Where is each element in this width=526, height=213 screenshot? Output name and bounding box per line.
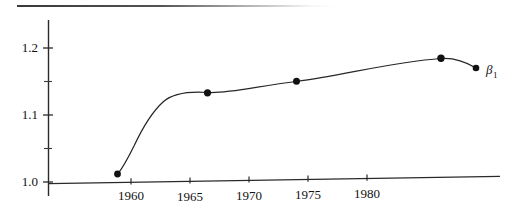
series-label-beta1: β1: [486, 62, 497, 80]
data-point-1966: [204, 89, 211, 96]
x-tick-label-1965: 1965: [164, 190, 216, 203]
data-point-1979: [437, 55, 444, 62]
x-tick-label-1960: 1960: [105, 189, 157, 202]
data-line-beta1: [118, 58, 477, 174]
x-axis-line: [49, 176, 501, 183]
line-chart-plot: [0, 0, 526, 213]
data-point-1981: [473, 65, 480, 72]
y-tick-label-1-0: 1.0: [2, 175, 38, 188]
series-label-base: β: [486, 62, 492, 77]
x-tick-label-1970: 1970: [223, 189, 275, 202]
x-tick-label-1980: 1980: [341, 187, 393, 200]
y-tick-label-1-1: 1.1: [2, 108, 38, 121]
data-point-1961: [114, 171, 121, 178]
x-tick-label-1975: 1975: [282, 188, 334, 201]
figure-container: 1.2 1.1 1.0 1960 1965 1970 1975 1980 β1: [0, 0, 526, 213]
data-point-1971: [293, 78, 300, 85]
series-label-subscript: 1: [493, 70, 498, 80]
y-tick-label-1-2: 1.2: [2, 41, 38, 54]
